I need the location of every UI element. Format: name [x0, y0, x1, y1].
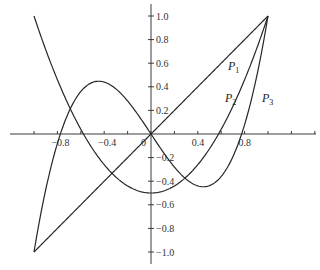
x-tick-label: 0.4	[192, 137, 205, 148]
label-p3: P3	[261, 91, 273, 107]
x-tick-label: −0.4	[98, 137, 116, 148]
y-tick-label: 1.0	[156, 11, 169, 22]
y-tick-label: 0.6	[156, 58, 169, 69]
label-p2: P2	[224, 91, 236, 107]
y-tick-label: 0.2	[156, 105, 169, 116]
y-tick-label: 0.8	[156, 34, 169, 45]
y-tick-label: −0.8	[156, 223, 174, 234]
y-tick-label: −1.0	[156, 247, 174, 258]
y-tick-label: 0.4	[156, 81, 169, 92]
legendre-polynomial-chart: −0.8−0.400.40.8 1.00.80.60.40.2−0.2−0.4−…	[0, 0, 320, 270]
y-tick-label: −0.6	[156, 199, 174, 210]
label-p1: P1	[227, 59, 239, 75]
curve-labels: P1P2P3	[224, 59, 273, 107]
y-tick-label: −0.4	[156, 176, 174, 187]
x-tick-label: −0.8	[51, 137, 69, 148]
